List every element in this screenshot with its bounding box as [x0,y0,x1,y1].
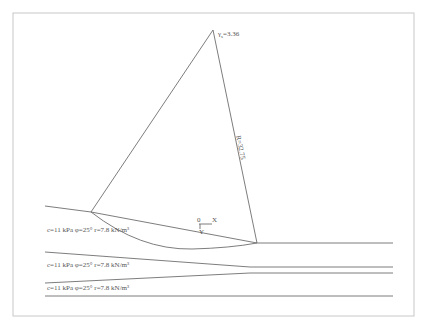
ground-surface-line [45,206,393,243]
radius-label: R=32.75 [234,135,247,161]
layer-boundary-2 [45,273,393,283]
layer-1-properties: c=11 kPa φ=25° r=7.8 kN/m³ [47,226,129,234]
diagram-frame [13,13,414,316]
safety-factor-label: γs=3.36 [217,30,240,39]
slope-stability-diagram: γs=3.36 R=32.75 0 X Y c=11 kPa φ=25° r=7… [0,0,423,333]
x-axis-label: X [212,216,217,224]
layer-2-properties: c=11 kPa φ=25° r=7.8 kN/m³ [47,261,129,269]
radius-line-left [91,30,213,212]
y-axis-label: Y [199,228,204,236]
origin-label: 0 [197,216,201,224]
layer-3-properties: c=11 kPa φ=25° r=7.8 kN/m³ [47,284,129,292]
